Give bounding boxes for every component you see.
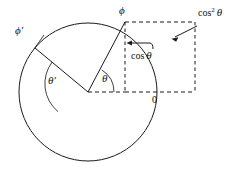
unit-circle-diagram: ϕ ϕ′ θ θ′ cosθ cos2θ 0 — [0, 0, 238, 178]
label-phi-prime: ϕ′ — [15, 24, 24, 36]
cos2-theta-arrow-shaft — [175, 26, 197, 37]
theta-prime-arc — [45, 62, 58, 112]
figure-container: ϕ ϕ′ θ θ′ cosθ cos2θ 0 — [0, 0, 238, 178]
cos2-variable: θ — [217, 6, 223, 18]
cos2-exponent: 2 — [211, 6, 215, 14]
radius-to-phi-prime — [35, 48, 88, 92]
cos2-base: cos — [198, 7, 211, 18]
phi-prime-tick — [34, 35, 44, 49]
label-theta: θ — [102, 72, 108, 84]
label-theta-prime: θ′ — [48, 74, 56, 86]
cos-theta-base: cos — [131, 50, 144, 61]
label-cos-theta: cosθ — [131, 49, 152, 61]
label-phi: ϕ — [119, 4, 125, 16]
cos-theta-variable: θ — [146, 49, 152, 61]
cos2-theta-arrowhead — [172, 37, 179, 41]
label-cos-squared-theta: cos2θ — [198, 6, 223, 18]
label-origin: 0 — [152, 94, 157, 105]
cos-theta-arrowhead — [127, 41, 133, 46]
